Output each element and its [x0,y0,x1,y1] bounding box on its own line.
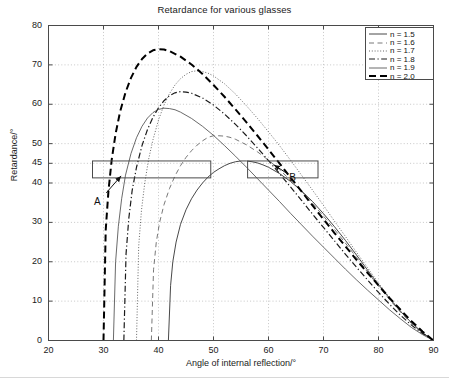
legend-swatch-icon [368,30,388,38]
annotation-arrows [106,165,288,193]
x-tick-90: 90 [419,345,449,355]
legend: n = 1.5n = 1.6n = 1.7n = 1.8n = 1.9n = 2… [365,27,434,80]
y-tick-70: 70 [16,59,42,69]
x-tick-20: 20 [34,345,64,355]
y-tick-60: 60 [16,98,42,108]
figure-bottom-rule [0,377,449,378]
series-line-1.6 [151,136,433,341]
x-tick-70: 70 [309,345,339,355]
x-tick-40: 40 [144,345,174,355]
figure: Retardance for various glasses 010203040… [0,0,449,379]
annotation-label-a: A [94,196,101,207]
legend-swatch-icon [368,64,388,72]
annotation-label-b: B [289,172,296,183]
x-tick-50: 50 [199,345,229,355]
y-tick-45: 45 [16,157,42,167]
series-line-1.7 [137,71,434,341]
x-tick-80: 80 [364,345,394,355]
legend-swatch-icon [368,39,388,47]
legend-swatch-icon [368,55,388,63]
legend-label: n = 2.0 [390,72,415,81]
legend-swatch-icon [368,72,388,80]
y-tick-10: 10 [16,295,42,305]
y-tick-80: 80 [16,20,42,30]
x-tick-60: 60 [254,345,284,355]
y-tick-50: 50 [16,138,42,148]
legend-item-2.0: n = 2.0 [366,72,433,80]
y-axis-label: Retardance/° [9,115,19,195]
y-tick-40: 40 [16,177,42,187]
series-line-1.9 [113,108,433,340]
y-tick-0: 0 [16,335,42,345]
y-tick-30: 30 [16,216,42,226]
x-tick-30: 30 [89,345,119,355]
x-axis-label: Angle of internal reflection/° [48,358,434,368]
legend-swatch-icon [368,47,388,55]
y-tick-20: 20 [16,256,42,266]
